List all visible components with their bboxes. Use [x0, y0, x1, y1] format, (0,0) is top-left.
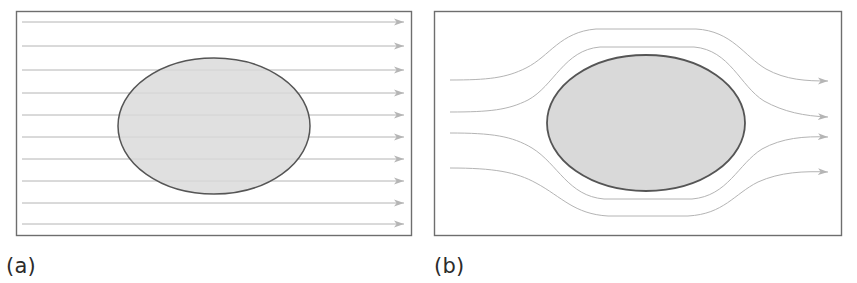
- panel-b: (b): [428, 0, 857, 283]
- panel-a-diagram: [0, 0, 428, 250]
- panel-b-caption: (b): [434, 256, 464, 277]
- panel-a-caption: (a): [6, 256, 36, 277]
- panel-a-ellipse-body: [118, 58, 310, 194]
- panel-b-diagram: [428, 0, 857, 250]
- panel-b-ellipse-body: [547, 55, 745, 191]
- panel-a: (a): [0, 0, 428, 283]
- figure-root: (a) (b): [0, 0, 857, 283]
